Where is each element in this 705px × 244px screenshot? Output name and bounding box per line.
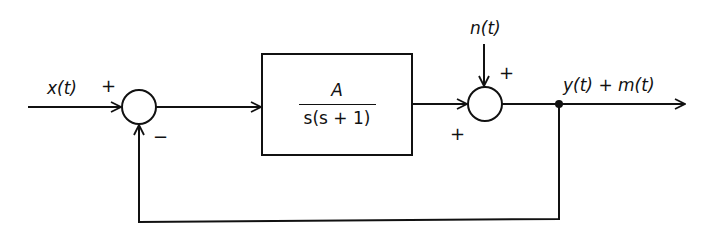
tf-denominator: s(s + 1) <box>304 105 371 127</box>
tf-numerator: A <box>331 82 343 104</box>
disturbance-label: n(t) <box>470 20 501 37</box>
feedback-minus-sign: − <box>153 128 168 146</box>
output-label: y(t) + m(t) <box>563 77 655 94</box>
disturbance-plus-sign: + <box>499 64 514 82</box>
input-plus-sign: + <box>101 77 116 95</box>
transfer-function: A s(s + 1) <box>262 54 412 155</box>
input-label: x(t) <box>47 80 77 97</box>
summing-junction-1 <box>122 90 156 124</box>
pickoff-point <box>555 100 563 108</box>
plant-plus-sign: + <box>450 125 465 143</box>
summing-junction-2 <box>468 87 502 121</box>
